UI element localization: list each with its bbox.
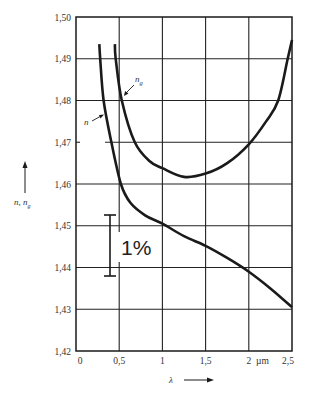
y-tick-label: 1,47 [54, 138, 71, 148]
n-curve-label: n [84, 117, 89, 127]
y-tick-label: 1,49 [54, 54, 71, 64]
refractive-index-chart: 1,421,431,441,451,461,471,481,491,50 00,… [0, 0, 310, 396]
ng-label-arrow-icon [124, 85, 134, 96]
y-tick-label: 1,45 [54, 221, 71, 231]
x-tick-label: 1,5 [200, 356, 212, 366]
y-tick-label: 1,50 [54, 13, 71, 23]
n-label-arrow-icon [92, 115, 104, 122]
x-axis-arrow-icon [184, 378, 214, 383]
y-tick-label: 1,42 [54, 347, 71, 357]
ng-curve-label: ng [135, 74, 144, 86]
scale-label: 1% [121, 236, 151, 259]
x-axis-unit: µm [256, 356, 269, 366]
x-tick-label: 0 [78, 356, 83, 366]
x-tick-label: 0,5 [113, 356, 125, 366]
y-tick-label: 1,44 [54, 263, 71, 273]
curve-ng [115, 40, 292, 177]
y-tick-label: 1,46 [54, 180, 71, 190]
y-axis-label: n, ng [14, 197, 31, 209]
y-tick-label: 1,48 [54, 96, 71, 106]
x-axis-label: λ [168, 375, 173, 385]
y-tick-label: 1,43 [54, 305, 71, 315]
x-tick-label: 2,5 [282, 356, 294, 366]
y-axis-arrow-icon [23, 161, 28, 193]
y-tick-labels: 1,421,431,441,451,461,471,481,491,50 [54, 13, 71, 357]
grid [76, 17, 292, 351]
scale-bar [104, 215, 116, 276]
x-tick-label: 1 [160, 356, 165, 366]
x-tick-label: 2 [246, 356, 251, 366]
